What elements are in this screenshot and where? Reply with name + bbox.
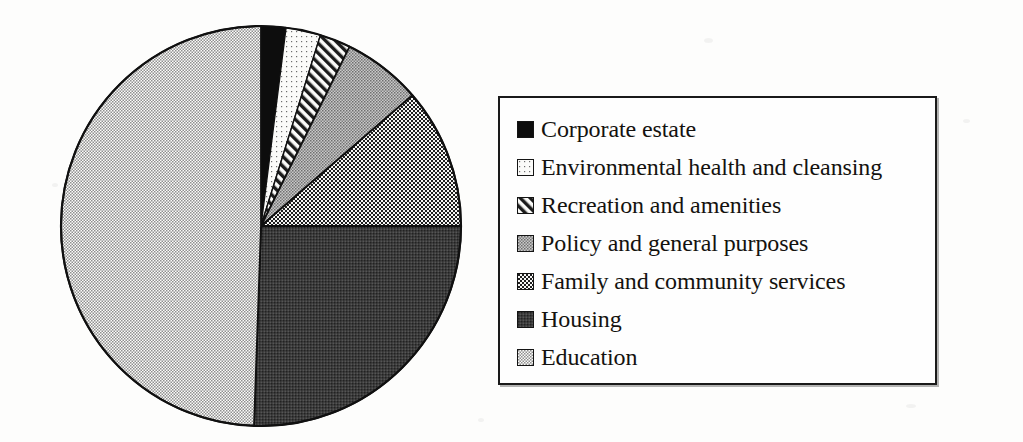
swatch-education <box>517 349 534 366</box>
paper-speckle <box>906 404 916 408</box>
legend-item[interactable]: Corporate estate <box>517 110 927 148</box>
paper-speckle <box>478 418 484 422</box>
legend-item-label: Corporate estate <box>541 116 696 142</box>
swatch-recreation-and-amenities <box>517 197 534 214</box>
legend-item[interactable]: Policy and general purposes <box>517 224 927 262</box>
pie-slice[interactable] <box>254 226 461 426</box>
swatch-environmental-health-and-cleansing <box>517 159 534 176</box>
legend-item[interactable]: Recreation and amenities <box>517 186 927 224</box>
legend-item-label: Housing <box>541 306 622 332</box>
swatch-corporate-estate <box>517 121 534 138</box>
pie-chart-figure: Corporate estateEnvironmental health and… <box>0 0 1023 442</box>
legend-item-label: Recreation and amenities <box>541 192 781 218</box>
legend-item-label: Education <box>541 344 637 370</box>
legend-item[interactable]: Education <box>517 338 927 376</box>
paper-speckle <box>704 38 713 43</box>
legend-item-label: Family and community services <box>541 268 845 294</box>
pie-slice[interactable] <box>61 26 261 426</box>
legend-item[interactable]: Environmental health and cleansing <box>517 148 927 186</box>
swatch-housing <box>517 311 534 328</box>
pie-svg <box>55 20 470 435</box>
paper-speckle <box>963 119 970 123</box>
swatch-family-and-community-services <box>517 273 534 290</box>
pie-chart <box>55 20 470 435</box>
legend-list: Corporate estateEnvironmental health and… <box>517 110 927 376</box>
legend-item[interactable]: Housing <box>517 300 927 338</box>
swatch-policy-and-general-purposes <box>517 235 534 252</box>
legend: Corporate estateEnvironmental health and… <box>498 96 937 385</box>
legend-item[interactable]: Family and community services <box>517 262 927 300</box>
legend-item-label: Environmental health and cleansing <box>541 154 882 180</box>
pie-slices <box>61 26 461 426</box>
legend-item-label: Policy and general purposes <box>541 230 808 256</box>
